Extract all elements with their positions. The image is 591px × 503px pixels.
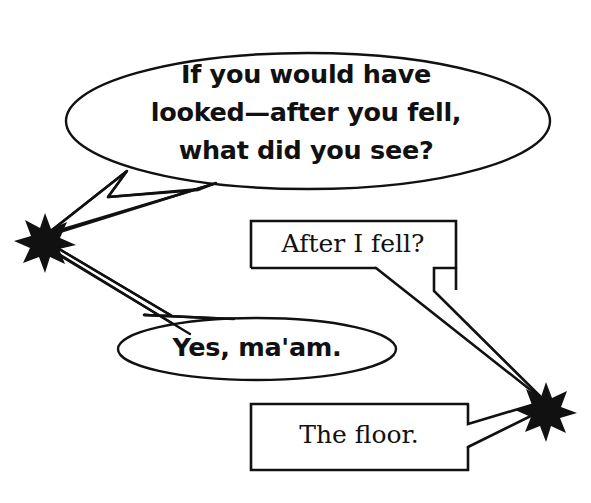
balloon-question-tail-stroke2 [47, 183, 216, 236]
dialogue-figure: If you would have looked—after you fell,… [0, 0, 591, 503]
speaker-right-marker[interactable] [515, 382, 577, 442]
balloon-artwork [0, 0, 591, 503]
balloon-after-tail-edge1 [376, 268, 547, 403]
balloon-yes-body [118, 318, 396, 380]
balloon-yes-tail-stroke2 [49, 249, 190, 334]
balloon-yes-tail-stroke [49, 243, 234, 319]
balloon-floor[interactable] [251, 401, 545, 470]
star-burst-icon [515, 382, 577, 442]
balloon-question[interactable] [47, 53, 550, 236]
balloon-floor-body [251, 404, 494, 470]
balloon-question-body [66, 53, 550, 189]
